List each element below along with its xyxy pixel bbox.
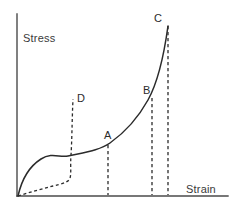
stress-strain-figure: Stress Strain D A B C [0,0,229,207]
point-label-b: B [143,84,150,96]
drop-lines-group [108,26,168,195]
recovery-curve-dashed [18,99,73,196]
point-label-c: C [154,12,162,24]
y-axis-label: Stress [23,32,56,44]
loading-curve-solid [18,26,168,196]
point-label-a: A [104,129,112,141]
point-label-d: D [77,92,85,104]
x-axis-label: Strain [186,183,216,195]
stress-strain-chart: Stress Strain D A B C [0,0,229,207]
